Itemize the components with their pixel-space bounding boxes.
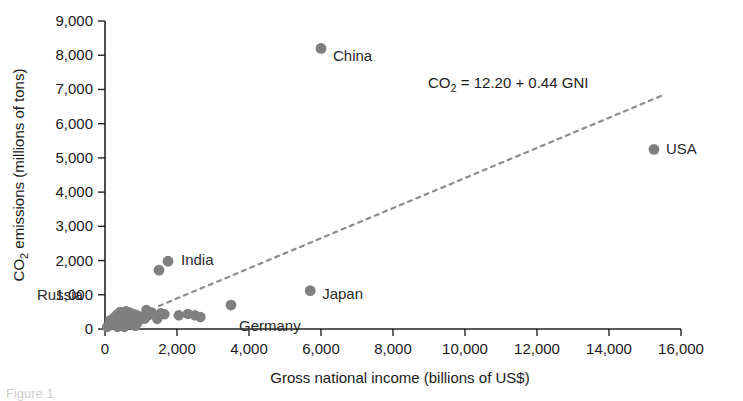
regression-line <box>159 96 661 306</box>
y-tick-label: 2,000 <box>55 252 93 269</box>
axes <box>105 21 681 329</box>
x-tick-label: 10,000 <box>442 340 488 357</box>
y-axis-title-prefix: CO <box>10 259 27 282</box>
x-tick-label: 8,000 <box>374 340 412 357</box>
chart-canvas: 02,0004,0006,0008,00010,00012,00014,0001… <box>0 0 743 401</box>
data-point-china <box>316 43 327 54</box>
point-label-usa: USA <box>666 140 697 157</box>
x-tick-label: 14,000 <box>586 340 632 357</box>
x-tick-label: 6,000 <box>302 340 340 357</box>
y-tick-label: 0 <box>85 320 93 337</box>
equation-prefix: CO <box>428 74 451 91</box>
data-point-japan <box>305 285 316 296</box>
x-axis-tick-labels: 02,0004,0006,0008,00010,00012,00014,0001… <box>101 340 704 357</box>
point-label-india: India <box>181 251 214 268</box>
x-axis-title: Gross national income (billions of US$) <box>270 369 529 386</box>
point-label-china: China <box>333 47 373 64</box>
x-tick-label: 4,000 <box>230 340 268 357</box>
x-tick-label: 16,000 <box>658 340 704 357</box>
y-axis-title: CO2 emissions (millions of tons) <box>10 69 30 282</box>
x-tick-label: 12,000 <box>514 340 560 357</box>
data-point <box>195 312 205 322</box>
data-point-russia <box>154 265 165 276</box>
y-axis-title-suffix: emissions (millions of tons) <box>10 69 27 253</box>
point-label-russia: Russia <box>37 286 84 303</box>
x-tick-label: 2,000 <box>158 340 196 357</box>
data-point-labels: ChinaUSAIndiaRussiaJapanGermany <box>37 47 697 334</box>
data-point <box>130 321 140 331</box>
y-tick-label: 4,000 <box>55 183 93 200</box>
tick-marks <box>98 21 681 336</box>
equation-suffix: = 12.20 + 0.44 GNI <box>457 74 589 91</box>
y-tick-label: 3,000 <box>55 217 93 234</box>
point-label-japan: Japan <box>322 285 363 302</box>
point-label-germany: Germany <box>239 317 301 334</box>
data-point-india <box>163 256 174 267</box>
figure-caption-fragment: Figure 1 <box>6 386 54 401</box>
y-tick-label: 9,000 <box>55 12 93 29</box>
y-tick-label: 5,000 <box>55 149 93 166</box>
data-point-usa <box>649 144 660 155</box>
x-tick-label: 0 <box>101 340 109 357</box>
data-point <box>174 310 184 320</box>
data-point <box>119 322 129 332</box>
scatter-plot-figure: 02,0004,0006,0008,00010,00012,00014,0001… <box>0 0 743 401</box>
data-point <box>139 314 149 324</box>
y-tick-label: 6,000 <box>55 115 93 132</box>
data-point <box>159 309 169 319</box>
regression-equation-label: CO2 = 12.20 + 0.44 GNI <box>428 74 588 94</box>
regression-line-path <box>159 96 661 306</box>
y-tick-label: 7,000 <box>55 80 93 97</box>
data-point-germany <box>226 300 237 311</box>
y-tick-label: 8,000 <box>55 46 93 63</box>
